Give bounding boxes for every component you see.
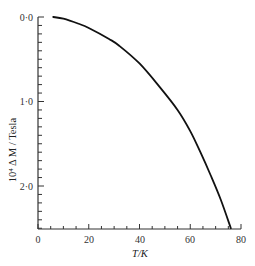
- y-axis-label: 10⁴ Δ M / Tesla: [7, 118, 18, 183]
- x-tick-label: 60: [185, 234, 195, 245]
- tick-marks: [38, 17, 241, 229]
- axes: [38, 17, 241, 229]
- y-tick-label: 1·0: [20, 96, 33, 107]
- x-tick-label: 20: [84, 234, 94, 245]
- x-tick-label: 80: [236, 234, 246, 245]
- x-tick-label: 0: [36, 234, 41, 245]
- chart: 0·0 1·0 2·0 0 20 40 60 80 T/K 10⁴ Δ M / …: [0, 0, 255, 266]
- data-line: [53, 17, 231, 228]
- y-tick-label: 2·0: [20, 181, 33, 192]
- x-tick-label: 40: [135, 234, 145, 245]
- x-axis-label: T/K: [132, 248, 149, 259]
- y-tick-label: 0·0: [20, 12, 33, 23]
